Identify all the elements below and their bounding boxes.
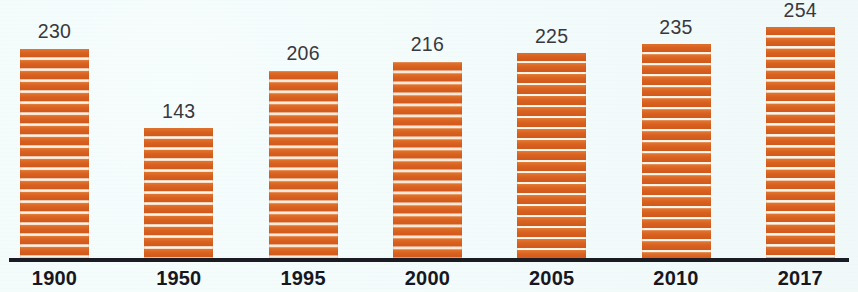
bar-group: 225 (517, 0, 586, 258)
bar-chart: 230143206216225235254 190019501995200020… (0, 0, 858, 292)
bar (766, 27, 835, 258)
x-axis-tick-label: 2005 (517, 265, 586, 292)
bar-value-label: 254 (766, 1, 835, 21)
bar-value-label: 216 (393, 35, 462, 55)
bar (517, 53, 586, 258)
bar (269, 71, 338, 258)
x-axis-line (9, 258, 849, 262)
x-axis-tick-label: 2000 (393, 265, 462, 292)
bar-group: 216 (393, 0, 462, 258)
bar-value-label: 225 (517, 27, 586, 47)
bar (642, 44, 711, 258)
x-axis-tick-label: 1995 (269, 265, 338, 292)
bar-value-label: 230 (20, 22, 89, 42)
bar (393, 62, 462, 258)
x-axis-tick-label: 1900 (20, 265, 89, 292)
bar-value-label: 206 (269, 44, 338, 64)
bar-group: 143 (144, 0, 213, 258)
bar-value-label: 143 (144, 102, 213, 122)
bar-group: 254 (766, 0, 835, 258)
bar-group: 230 (20, 0, 89, 258)
bar (144, 128, 213, 258)
x-axis-tick-label: 2010 (642, 265, 711, 292)
plot-area: 230143206216225235254 (0, 0, 858, 258)
x-axis-tick-label: 1950 (144, 265, 213, 292)
bar (20, 49, 89, 258)
x-axis-tick-label: 2017 (766, 265, 835, 292)
bar-group: 235 (642, 0, 711, 258)
x-axis-labels: 1900195019952000200520102017 (0, 265, 858, 292)
bar-value-label: 235 (642, 18, 711, 38)
bar-group: 206 (269, 0, 338, 258)
